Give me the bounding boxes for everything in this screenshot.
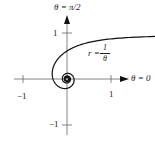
label-theta-zero: θ = 0 <box>131 74 151 83</box>
equation-fraction: 1 θ <box>100 44 110 63</box>
tick-label-y-neg: −1 <box>49 120 59 129</box>
equation-denominator: θ <box>100 54 110 63</box>
tick-label-x-neg: −1 <box>17 92 27 101</box>
equation-lhs: r = <box>88 49 100 58</box>
tick-label-y-pos: 1 <box>53 29 58 38</box>
equation-numerator: 1 <box>100 44 110 54</box>
x-axis-arrow-icon <box>120 76 129 82</box>
tick-label-x-pos: 1 <box>109 90 114 99</box>
y-axis-arrow-icon <box>64 15 70 24</box>
label-theta-pi-over-2: θ = π/2 <box>54 3 81 12</box>
